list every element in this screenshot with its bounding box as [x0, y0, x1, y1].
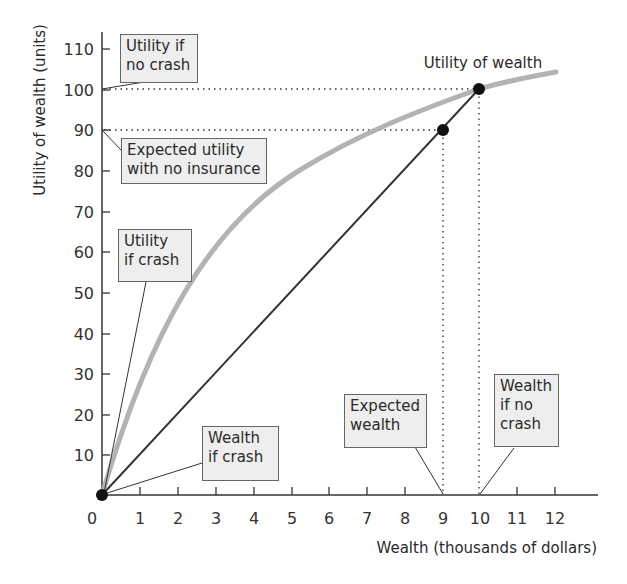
chart-canvas: 10 20 30 40 50 60 70 80 90 100 110 0 1 2…	[0, 0, 627, 584]
annotation-expected-wealth: Expected wealth	[344, 394, 427, 448]
svg-text:10: 10	[74, 446, 94, 465]
svg-text:10: 10	[470, 509, 490, 528]
svg-text:11: 11	[507, 509, 527, 528]
utility-curve	[102, 72, 556, 495]
point-expected	[437, 124, 449, 136]
svg-text:60: 60	[74, 243, 94, 262]
svg-text:70: 70	[74, 203, 94, 222]
svg-text:7: 7	[362, 509, 372, 528]
annotation-wealth-no-crash: Wealth if no crash	[494, 374, 559, 447]
point-crash	[96, 489, 108, 501]
svg-text:40: 40	[74, 325, 94, 344]
svg-text:110: 110	[63, 40, 94, 59]
svg-text:50: 50	[74, 284, 94, 303]
x-ticks	[140, 487, 555, 495]
annotation-expected-utility: Expected utility with no insurance	[121, 138, 267, 184]
annotation-wealth-crash: Wealth if crash	[202, 426, 279, 481]
annotation-utility-crash: Utility if crash	[118, 229, 192, 282]
svg-text:12: 12	[545, 509, 565, 528]
y-tick-labels: 10 20 30 40 50 60 70 80 90 100 110	[63, 40, 94, 465]
svg-text:6: 6	[324, 509, 334, 528]
svg-text:2: 2	[173, 509, 183, 528]
svg-text:4: 4	[249, 509, 259, 528]
x-axis-title: Wealth (thousands of dollars)	[376, 539, 597, 557]
y-ticks	[102, 49, 110, 455]
svg-text:90: 90	[74, 121, 94, 140]
svg-text:8: 8	[400, 509, 410, 528]
svg-text:30: 30	[74, 365, 94, 384]
y-axis-title: Utility of wealth (units)	[31, 24, 49, 196]
annotation-utility-no-crash: Utility if no crash	[120, 34, 198, 83]
x-tick-labels: 0 1 2 3 4 5 6 7 8 9 10 11 12	[87, 509, 565, 528]
svg-text:0: 0	[87, 509, 97, 528]
svg-text:1: 1	[135, 509, 145, 528]
svg-text:5: 5	[287, 509, 297, 528]
svg-text:100: 100	[63, 81, 94, 100]
curve-label: Utility of wealth	[424, 54, 542, 72]
svg-text:9: 9	[438, 509, 448, 528]
svg-text:80: 80	[74, 162, 94, 181]
point-no-crash	[473, 83, 485, 95]
svg-text:3: 3	[211, 509, 221, 528]
svg-text:20: 20	[74, 406, 94, 425]
